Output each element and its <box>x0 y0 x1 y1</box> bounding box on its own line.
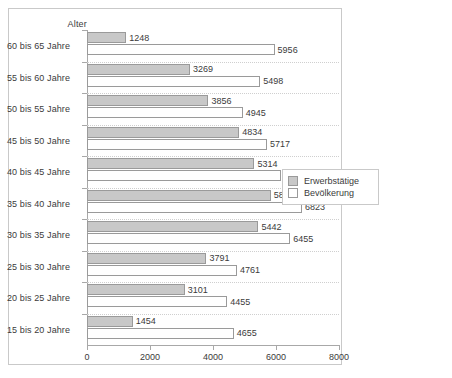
bar: 5956 <box>87 44 275 55</box>
x-axis-tick <box>87 345 88 350</box>
category-label: 50 bis 55 Jahre <box>7 104 79 114</box>
y-axis-tick <box>82 188 87 189</box>
bar-value-label: 5956 <box>278 45 298 55</box>
bar-group: 45 bis 50 Jahre48345717 <box>87 125 339 157</box>
bar-value-label: 5442 <box>261 222 281 232</box>
x-axis-tick-label: 4000 <box>203 352 223 362</box>
y-axis-tick <box>82 62 87 63</box>
bar-value-label: 5314 <box>257 159 277 169</box>
x-axis-tick <box>150 345 151 350</box>
bar-group: 15 bis 20 Jahre14544655 <box>87 314 339 346</box>
x-axis-tick <box>276 345 277 350</box>
bar-value-label: 4761 <box>240 265 260 275</box>
bar-value-label: 3856 <box>211 96 231 106</box>
legend-item: Erwerbstätige <box>288 176 373 186</box>
bar: 4761 <box>87 265 237 276</box>
legend-swatch-icon <box>288 176 298 186</box>
chart-frame: Alter 60 bis 65 Jahre1248595655 bis 60 J… <box>8 8 342 365</box>
category-label: 15 bis 20 Jahre <box>7 325 79 335</box>
x-axis-tick <box>339 345 340 350</box>
category-label: 30 bis 35 Jahre <box>7 230 79 240</box>
category-label: 40 bis 45 Jahre <box>7 167 79 177</box>
bar-group: 55 bis 60 Jahre32695498 <box>87 62 339 94</box>
bar-value-label: 4655 <box>237 328 257 338</box>
bar: 6168 <box>87 170 281 181</box>
bar: 6823 <box>87 202 302 213</box>
y-axis-tick <box>82 30 87 31</box>
bar: 4655 <box>87 328 234 339</box>
bar-value-label: 5717 <box>270 139 290 149</box>
y-axis-title: Alter <box>17 19 87 29</box>
x-axis-tick-label: 6000 <box>266 352 286 362</box>
bar: 3791 <box>87 253 206 264</box>
bar: 5717 <box>87 139 267 150</box>
bar: 4455 <box>87 296 227 307</box>
x-axis-tick <box>213 345 214 350</box>
bar-value-label: 4834 <box>242 127 262 137</box>
bar: 3101 <box>87 284 185 295</box>
bar: 1454 <box>87 316 133 327</box>
y-axis-tick <box>82 282 87 283</box>
bar-group: 50 bis 55 Jahre38564945 <box>87 93 339 125</box>
category-label: 55 bis 60 Jahre <box>7 73 79 83</box>
bar-value-label: 1248 <box>129 33 149 43</box>
bar: 3856 <box>87 95 208 106</box>
y-axis-tick <box>82 93 87 94</box>
bar-value-label: 3101 <box>188 285 208 295</box>
bar: 5498 <box>87 76 260 87</box>
bar-value-label: 5498 <box>263 76 283 86</box>
page-margin-text <box>396 196 448 346</box>
bar-value-label: 1454 <box>136 316 156 326</box>
bar-group: 30 bis 35 Jahre54426455 <box>87 219 339 251</box>
bar: 5314 <box>87 158 254 169</box>
bar: 6455 <box>87 233 290 244</box>
bar-group: 60 bis 65 Jahre12485956 <box>87 30 339 62</box>
bar-group: 20 bis 25 Jahre31014455 <box>87 282 339 314</box>
bar: 1248 <box>87 32 126 43</box>
legend-item: Bevölkerung <box>288 188 373 198</box>
y-axis-tick <box>82 156 87 157</box>
bar: 5831 <box>87 190 271 201</box>
y-axis-tick <box>82 251 87 252</box>
bar: 3269 <box>87 64 190 75</box>
x-axis-tick-label: 8000 <box>329 352 349 362</box>
bar: 4834 <box>87 127 239 138</box>
category-label: 35 bis 40 Jahre <box>7 199 79 209</box>
bar-group: 25 bis 30 Jahre37914761 <box>87 251 339 283</box>
bar: 5442 <box>87 221 258 232</box>
chart-legend: ErwerbstätigeBevölkerung <box>282 169 379 205</box>
category-label: 60 bis 65 Jahre <box>7 41 79 51</box>
legend-label: Erwerbstätige <box>304 176 359 186</box>
category-label: 45 bis 50 Jahre <box>7 136 79 146</box>
y-axis-tick <box>82 125 87 126</box>
legend-label: Bevölkerung <box>304 188 354 198</box>
bar-value-label: 4455 <box>230 297 250 307</box>
category-label: 25 bis 30 Jahre <box>7 262 79 272</box>
y-axis-tick <box>82 219 87 220</box>
x-axis-tick-label: 0 <box>84 352 89 362</box>
legend-swatch-icon <box>288 188 298 198</box>
bar-value-label: 4945 <box>246 108 266 118</box>
category-label: 20 bis 25 Jahre <box>7 293 79 303</box>
x-axis-tick-label: 2000 <box>140 352 160 362</box>
bar-value-label: 3791 <box>209 253 229 263</box>
bar-value-label: 3269 <box>193 64 213 74</box>
bar-value-label: 6455 <box>293 234 313 244</box>
bar: 4945 <box>87 107 243 118</box>
y-axis-tick <box>82 314 87 315</box>
